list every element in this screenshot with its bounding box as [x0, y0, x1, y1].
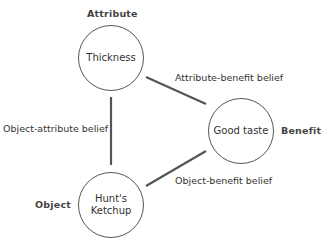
- object-node-label-line2: Ketchup: [91, 205, 132, 218]
- attribute-node: Thickness: [78, 25, 144, 91]
- attribute-node-label: Thickness: [86, 52, 135, 65]
- attribute-role-label: Attribute: [87, 8, 138, 19]
- object-node: Hunt's Ketchup: [78, 172, 144, 238]
- edge-label-object-attribute: Object-attribute belief: [3, 123, 108, 134]
- benefit-node-label: Good taste: [214, 125, 269, 138]
- benefit-node: Good taste: [208, 98, 274, 164]
- benefit-role-label: Benefit: [281, 125, 321, 136]
- edge-label-attribute-benefit: Attribute-benefit belief: [175, 72, 283, 83]
- object-node-label-line1: Hunt's: [95, 193, 127, 206]
- object-role-label: Object: [35, 199, 71, 210]
- edge-label-object-benefit: Object-benefit belief: [175, 175, 272, 186]
